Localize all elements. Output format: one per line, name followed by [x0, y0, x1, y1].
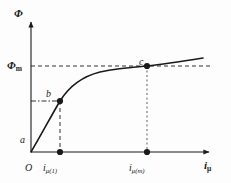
- point-label-a: a: [20, 135, 25, 145]
- i-mu-1-subscript: μ(1): [46, 167, 57, 174]
- origin-label: O: [25, 163, 32, 173]
- y-tick-label-phi-m: Φm: [7, 60, 22, 73]
- x-tick-label-i-mu-1: iμ(1): [43, 163, 57, 175]
- x-tick-label-i-mu-m: iμ(m): [129, 163, 145, 175]
- magnetization-curve-figure: Φ Φm iμ O a b c iμ(1) iμ(m): [0, 0, 231, 183]
- phi-m-glyph: Φ: [7, 59, 16, 71]
- x-tick-marker-i-mu-m: [144, 149, 150, 155]
- figure-canvas: [0, 0, 231, 183]
- point-label-c: c: [139, 57, 143, 67]
- phi-m-subscript: m: [16, 64, 22, 73]
- y-axis-label: Φ: [14, 8, 23, 19]
- point-label-b: b: [46, 89, 51, 99]
- point-marker-c: [144, 63, 150, 69]
- i-mu-m-subscript: μ(m): [132, 167, 145, 174]
- point-marker-b: [57, 98, 63, 104]
- x-axis-subscript: μ: [207, 164, 211, 173]
- saturation-curve: [31, 58, 203, 152]
- x-tick-marker-i-mu-1: [57, 149, 63, 155]
- x-axis-label: iμ: [204, 160, 211, 173]
